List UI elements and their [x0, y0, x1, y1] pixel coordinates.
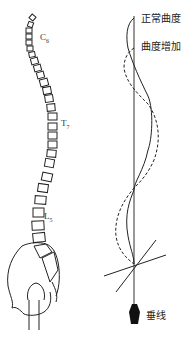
label-c6: C6 — [40, 33, 49, 44]
label-plumb-line: 垂线 — [146, 311, 166, 321]
label-increased-curvature: 曲度增加 — [141, 42, 181, 52]
label-l5: L5 — [44, 212, 53, 223]
label-normal-curvature: 正常曲度 — [141, 14, 181, 24]
spine-curvature-diagram: C6 T7 L5 正常曲度 曲度增加 垂线 — [0, 0, 188, 344]
pelvis — [8, 243, 60, 330]
plumb-bob-icon — [129, 304, 140, 324]
angle-lines — [104, 240, 166, 292]
normal-curve — [127, 18, 152, 264]
label-t7: T7 — [61, 119, 70, 130]
vertebral-column — [26, 14, 57, 243]
increased-curve — [116, 48, 159, 264]
